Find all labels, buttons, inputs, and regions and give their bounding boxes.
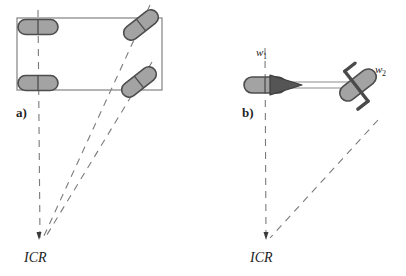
icr-arrowhead-b [264, 232, 269, 240]
front-left-wheel [121, 7, 162, 43]
figure-container: a) ICR [0, 0, 406, 276]
panel-a-label: a) [16, 105, 27, 120]
figure-canvas: a) ICR [0, 0, 406, 276]
front-right-wheel [119, 64, 160, 100]
svg-text:1: 1 [263, 52, 267, 61]
front-axis-dashed-line-b [270, 120, 378, 238]
icr-label-b: ICR [249, 250, 273, 265]
front-wheel-w2 [337, 66, 380, 104]
rear-axis-dashed-line-a [38, 10, 40, 238]
icr-label-a: ICR [23, 250, 47, 265]
rear-left-wheel [18, 20, 58, 35]
rear-right-wheel [18, 76, 58, 91]
panel-a: a) ICR [16, 5, 162, 265]
svg-text:2: 2 [382, 69, 386, 78]
heading-arrow [270, 75, 302, 95]
icr-arrowhead-a [37, 232, 42, 240]
panel-b: w 1 w 2 b) ICR [242, 46, 386, 265]
panel-b-label: b) [242, 105, 254, 120]
